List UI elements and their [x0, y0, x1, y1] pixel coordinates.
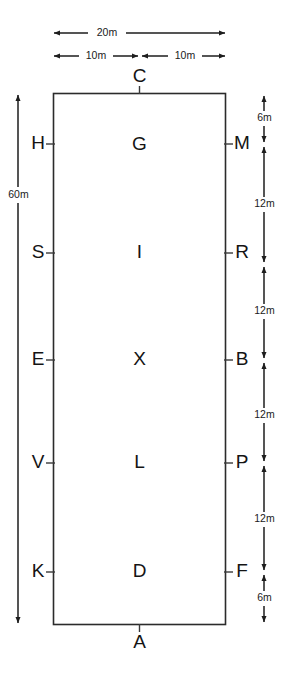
dim-label-10m-right: 10m: [175, 49, 196, 61]
top-dimension-10m-left: 10m: [54, 48, 138, 64]
dim-label-6m-bottom: 6m: [257, 591, 272, 603]
right-dimension-6m-top: 6m: [251, 96, 278, 142]
dim-label-20m: 20m: [97, 26, 118, 38]
point-label-D: D: [133, 560, 147, 581]
right-dimension-12m-4: 12m: [249, 466, 280, 570]
dim-label-10m-left: 10m: [86, 49, 107, 61]
point-label-X: X: [133, 348, 146, 369]
top-dimension-20m: 20m: [54, 25, 225, 41]
point-label-A: A: [133, 631, 146, 652]
point-label-G: G: [132, 133, 147, 154]
survey-diagram: 20m 10m 10m 60m 6m 12m: [0, 0, 289, 692]
right-dimension-12m-1: 12m: [249, 147, 280, 262]
top-dimension-10m-right: 10m: [142, 48, 225, 64]
right-dimension-12m-2: 12m: [249, 267, 280, 358]
point-label-I: I: [137, 241, 142, 262]
point-label-H: H: [31, 132, 45, 153]
point-label-V: V: [32, 451, 45, 472]
point-label-S: S: [32, 241, 45, 262]
dim-label-12m-4: 12m: [254, 512, 275, 524]
point-label-E: E: [32, 348, 45, 369]
right-dimension-12m-3: 12m: [249, 363, 280, 461]
dim-label-60m: 60m: [8, 188, 29, 200]
point-label-C: C: [133, 65, 147, 86]
point-label-P: P: [236, 451, 249, 472]
right-dimension-6m-bottom: 6m: [251, 575, 278, 622]
dim-label-12m-1: 12m: [254, 197, 275, 209]
point-label-B: B: [236, 348, 249, 369]
point-label-M: M: [234, 132, 250, 153]
point-label-L: L: [134, 451, 145, 472]
point-label-K: K: [32, 560, 45, 581]
point-label-R: R: [235, 241, 249, 262]
point-label-F: F: [236, 560, 248, 581]
dim-label-12m-2: 12m: [254, 304, 275, 316]
diagram-canvas: 20m 10m 10m 60m 6m 12m: [0, 0, 289, 692]
dim-label-12m-3: 12m: [254, 408, 275, 420]
left-dimension-60m: 60m: [4, 95, 33, 623]
dim-label-6m-top: 6m: [257, 111, 272, 123]
